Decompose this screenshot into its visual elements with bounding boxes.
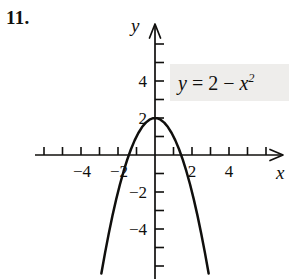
y-tick-label-pos2: 2 xyxy=(131,110,147,127)
x-tick-label-neg4: −4 xyxy=(70,163,94,180)
x-tick-label-pos2: 2 xyxy=(184,163,200,180)
x-tick-label-neg2: −2 xyxy=(107,163,131,180)
y-tick-label-pos4: 4 xyxy=(131,73,147,90)
y-tick-label-neg2: −2 xyxy=(123,184,147,201)
figure-panel: 11. y = 2 − x2 xyxy=(0,0,289,279)
x-tick-label-pos4: 4 xyxy=(221,163,237,180)
y-tick-label-neg4: −4 xyxy=(123,221,147,238)
x-axis-label: x xyxy=(276,163,284,182)
y-axis-label: y xyxy=(131,16,139,35)
